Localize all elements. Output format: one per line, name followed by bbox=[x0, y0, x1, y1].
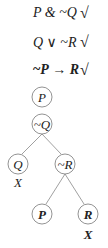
branch-line bbox=[65, 174, 84, 204]
branch-line bbox=[42, 134, 61, 154]
svg-text:Q: Q bbox=[13, 157, 23, 172]
tree-node-q: Q bbox=[8, 154, 28, 174]
svg-text:~R: ~R bbox=[58, 157, 73, 172]
tree-node-r-bold: R bbox=[78, 204, 98, 224]
branch-line bbox=[46, 174, 65, 204]
branch-line bbox=[22, 134, 42, 154]
tree-node-p: P bbox=[32, 87, 52, 107]
tree-node-not-q: ~Q bbox=[32, 114, 52, 134]
closed-branch-x-icon: X bbox=[13, 175, 23, 190]
closed-branch-x-icon: X bbox=[83, 227, 93, 242]
tree-node-not-r: ~R bbox=[55, 154, 75, 174]
svg-text:R: R bbox=[83, 207, 93, 222]
svg-text:P: P bbox=[37, 90, 46, 105]
svg-text:~Q: ~Q bbox=[34, 117, 51, 132]
tree-node-p-bold: P bbox=[32, 204, 52, 224]
truth-tree: P ~Q Q X ~R P R X bbox=[0, 0, 108, 248]
svg-text:P: P bbox=[38, 207, 47, 222]
